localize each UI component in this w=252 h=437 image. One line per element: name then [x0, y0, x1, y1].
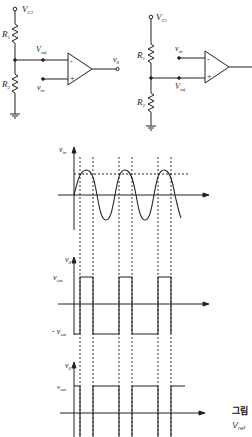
waveform-vo-2: v0 vsat [57, 361, 205, 437]
svg-text:-: - [70, 57, 73, 66]
comparator-diagram: VC1 R1 R2 Vref vin v0 - + VC1 R1 R2 vin … [0, 0, 252, 437]
svg-text:- vsat: - vsat [52, 327, 67, 337]
ground-icon [146, 126, 156, 130]
svg-text:+: + [207, 72, 212, 81]
circuit-left: VC1 R1 R2 Vref vin v0 - + [1, 4, 120, 118]
square-wave [74, 386, 80, 437]
svg-text:v0: v0 [113, 55, 120, 65]
svg-text:R1: R1 [136, 50, 145, 61]
resistor-r1 [12, 24, 18, 43]
svg-text:R2: R2 [136, 97, 146, 108]
crossing-guides [80, 157, 171, 437]
figure-caption: 그림 Vref [232, 405, 248, 431]
svg-text:v0: v0 [65, 361, 72, 371]
resistor-r2 [12, 74, 18, 93]
ground-icon [10, 114, 20, 118]
svg-text:+: + [70, 74, 75, 83]
arrow-up-icon [72, 362, 76, 368]
svg-text:Vref: Vref [175, 82, 186, 92]
waveform-vin: vin [58, 145, 209, 230]
svg-text:VC1: VC1 [156, 12, 167, 23]
svg-text:vin: vin [175, 44, 183, 54]
supply-terminal [149, 15, 153, 19]
output-terminal [116, 67, 119, 70]
svg-text:-: - [207, 55, 210, 64]
arrow-up-icon [72, 147, 76, 153]
arrow-up-icon [72, 257, 76, 263]
svg-text:R2: R2 [1, 79, 11, 90]
square-wave [74, 277, 171, 334]
svg-text:vsat: vsat [53, 273, 63, 283]
svg-text:v0: v0 [65, 255, 72, 265]
caption-title: 그림 [232, 405, 248, 416]
circuit-right: VC1 R1 R2 vin Vref - + [136, 12, 252, 130]
waveform-vo-1: v0 vsat - vsat [52, 255, 209, 337]
svg-text:vin: vin [37, 83, 45, 93]
svg-text:Vref: Vref [36, 45, 47, 55]
svg-text:R1: R1 [1, 29, 10, 40]
caption-line: Vref [232, 420, 246, 431]
svg-text:vsat: vsat [57, 383, 67, 392]
resistor-r2 [148, 93, 154, 112]
arrow-right-icon [199, 411, 205, 415]
supply-terminal [13, 7, 17, 11]
svg-text:vin: vin [59, 145, 67, 155]
resistor-r1 [148, 44, 154, 63]
svg-text:VC1: VC1 [22, 4, 33, 15]
arrow-right-icon [203, 193, 209, 197]
arrow-right-icon [203, 302, 209, 306]
